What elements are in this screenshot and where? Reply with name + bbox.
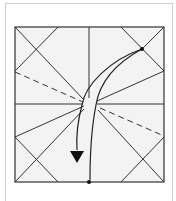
bottom-center-point-dot bbox=[87, 180, 91, 184]
upper-right-point-dot bbox=[140, 47, 144, 51]
diagram-frame bbox=[0, 0, 176, 201]
origami-diagram bbox=[0, 0, 176, 201]
